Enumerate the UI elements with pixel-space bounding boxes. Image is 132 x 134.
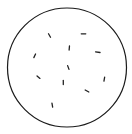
particle: [34, 54, 36, 58]
particle: [52, 103, 53, 107]
petri-dish-diagram: [0, 0, 132, 134]
particle: [37, 76, 40, 78]
diagram-canvas: [0, 0, 132, 134]
particle: [68, 66, 69, 70]
particle: [85, 90, 89, 92]
particle: [96, 52, 100, 53]
particle: [104, 77, 105, 81]
particles-group: [34, 34, 105, 107]
dish-outline: [8, 8, 127, 127]
particle: [49, 34, 51, 37]
